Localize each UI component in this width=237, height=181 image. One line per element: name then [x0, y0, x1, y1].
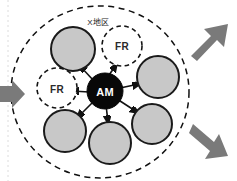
member-node-right-upper[interactable] — [137, 56, 179, 98]
fr-node-left[interactable]: FR — [37, 68, 77, 108]
fr-node-top-label: FR — [115, 41, 129, 52]
member-node-lower-left[interactable] — [44, 110, 86, 152]
region-title-label: X地区 — [87, 17, 108, 27]
fr-node-left-label: FR — [50, 84, 64, 95]
member-node-upper-left[interactable] — [51, 27, 95, 71]
outbound-arrow-bottom-right — [189, 124, 228, 159]
diagram-canvas: X地区 — [0, 0, 237, 181]
center-node-am-label: AM — [96, 86, 114, 98]
outbound-arrow-top-right — [191, 24, 228, 61]
member-node-bottom[interactable] — [89, 122, 131, 164]
member-node-right-lower[interactable] — [132, 104, 172, 144]
center-node-am[interactable]: AM — [87, 73, 123, 109]
fr-node-top[interactable]: FR — [102, 26, 142, 66]
